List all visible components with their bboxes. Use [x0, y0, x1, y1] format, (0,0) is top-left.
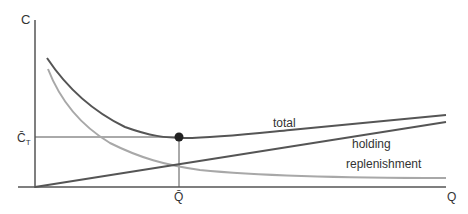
holding-label: holding — [352, 137, 391, 151]
y-axis-label: C — [21, 12, 30, 27]
total-curve — [47, 58, 446, 138]
replenishment-label: replenishment — [346, 157, 422, 171]
optimal-cost-label: C̄T — [17, 131, 31, 147]
optimum-point — [175, 133, 184, 142]
x-axis-label: Q — [447, 190, 456, 204]
eoq-chart: C Q Q̄ C̄T total holding replenishment — [0, 0, 468, 214]
optimal-q-label: Q̄ — [174, 190, 183, 204]
total-label: total — [273, 116, 296, 130]
optimal-cost-subscript: T — [26, 138, 31, 147]
